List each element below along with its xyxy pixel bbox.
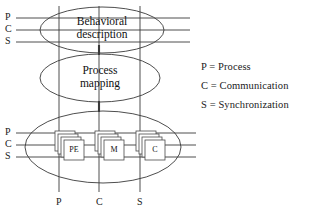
- component-label-pe: PE: [64, 146, 84, 154]
- axis-label-bottom-s: S: [137, 196, 143, 207]
- component-label-c: C: [145, 146, 165, 154]
- ellipse-label-behavioral-line2: description: [52, 28, 152, 41]
- component-label-m: M: [104, 146, 124, 154]
- axis-label-bottom-c: C: [96, 196, 103, 207]
- axis-label-top-p: P: [5, 11, 11, 22]
- axis-label-bottom-p: P: [56, 196, 62, 207]
- ellipse-label-behavioral: Behavioral description: [52, 15, 152, 41]
- ellipse-label-process-mapping: Process mapping: [50, 64, 150, 90]
- axis-label-bottom-left-p: P: [5, 126, 11, 137]
- axis-label-top-c: C: [5, 23, 12, 34]
- ellipse-label-process-mapping-line1: Process: [50, 64, 150, 77]
- axis-label-top-s: S: [5, 35, 11, 46]
- legend-item-process: P = Process: [201, 61, 251, 72]
- axis-label-bottom-left-c: C: [5, 138, 12, 149]
- ellipse-label-behavioral-line1: Behavioral: [52, 15, 152, 28]
- legend-item-synchronization: S = Synchronization: [201, 99, 289, 110]
- axis-label-bottom-left-s: S: [5, 150, 11, 161]
- ellipse-label-process-mapping-line2: mapping: [50, 77, 150, 90]
- legend-item-communication: C = Communication: [201, 80, 289, 91]
- figure-canvas: Behavioral description Process mapping P…: [0, 0, 322, 217]
